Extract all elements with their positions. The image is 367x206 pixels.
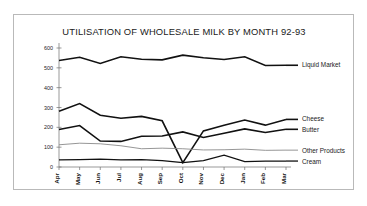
series-label-cheese: Cheese (302, 115, 324, 122)
series-line (59, 126, 286, 142)
series-lines (59, 55, 286, 163)
x-tick-label: Aug (136, 173, 143, 185)
x-tick-label: Apr (53, 172, 60, 183)
y-tick-label: 0 (50, 164, 53, 170)
x-tick-label: Jan (239, 173, 246, 184)
y-axis: 0100200300400500600 (44, 43, 62, 170)
series-labels: Liquid MarketCheeseButterOther ProductsC… (286, 61, 345, 164)
series-label-liquid-market: Liquid Market (302, 61, 341, 69)
series-line (59, 143, 286, 150)
chart-figure: UTILISATION OF WHOLESALE MILK BY MONTH 9… (13, 14, 354, 190)
x-tick-label: Feb (259, 173, 266, 184)
x-tick-label: Nov (197, 172, 204, 184)
x-tick-label: Mar (280, 172, 287, 184)
y-tick-label: 200 (44, 124, 53, 130)
x-tick-label: Jul (115, 173, 122, 182)
y-tick-label: 600 (44, 45, 53, 51)
x-tick-label: May (74, 172, 81, 185)
y-tick-label: 500 (44, 65, 53, 71)
y-tick-label: 300 (44, 105, 53, 111)
chart-title: UTILISATION OF WHOLESALE MILK BY MONTH 9… (62, 26, 305, 37)
y-tick-label: 400 (44, 85, 53, 91)
series-line (59, 104, 286, 163)
x-tick-label: Sep (156, 173, 163, 185)
x-tick-label: Dec (218, 172, 225, 184)
series-label-cream: Cream (302, 158, 321, 165)
x-tick-label: Oct (177, 173, 184, 183)
chart-plot: UTILISATION OF WHOLESALE MILK BY MONTH 9… (14, 15, 355, 191)
series-label-other-products: Other Products (302, 147, 345, 154)
series-line (59, 155, 286, 163)
x-tick-label: Jun (94, 173, 101, 184)
series-line (59, 55, 286, 65)
series-label-butter: Butter (302, 126, 320, 133)
y-tick-label: 100 (44, 144, 53, 150)
x-axis: AprMayJunJulAugSepOctNovDecJanFebMar (53, 167, 291, 185)
